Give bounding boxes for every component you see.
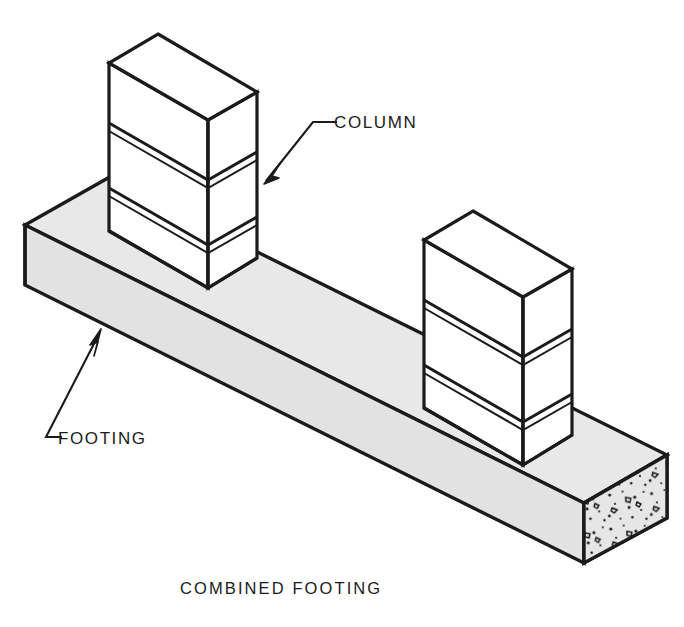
footing-leader-arrowhead bbox=[90, 329, 101, 356]
right-column-right-face bbox=[523, 269, 572, 465]
footing-callout: FOOTING bbox=[46, 329, 147, 448]
figure-caption: COMBINED FOOTING bbox=[180, 579, 382, 597]
column-leader-arrowhead bbox=[264, 162, 281, 184]
column-label: COLUMN bbox=[334, 113, 417, 132]
column-leader-line bbox=[266, 122, 337, 181]
combined-footing-figure: COLUMN FOOTING COMBINED FOOTING bbox=[0, 0, 684, 627]
footing-leader-line bbox=[46, 334, 99, 437]
column-callout: COLUMN bbox=[264, 113, 417, 184]
footing-label: FOOTING bbox=[58, 429, 147, 448]
left-column-right-face bbox=[208, 92, 257, 288]
isometric-drawing-canvas: COLUMN FOOTING COMBINED FOOTING bbox=[0, 0, 684, 627]
